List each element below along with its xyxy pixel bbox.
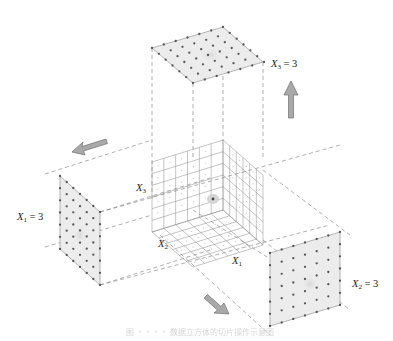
grid-dot: [192, 82, 194, 84]
cube-center-dot: [212, 198, 215, 201]
cube-dot: [194, 262, 195, 263]
grid-dot: [99, 223, 101, 225]
grid-dot: [72, 260, 74, 262]
grid-dot: [292, 245, 294, 247]
cube-dot: [169, 162, 170, 163]
grid-dot: [221, 66, 223, 68]
grid-dot: [229, 32, 231, 34]
grid-dot: [339, 255, 341, 257]
left-slice-panel: [59, 175, 101, 286]
grid-dot: [210, 29, 212, 31]
cube-dot: [239, 160, 240, 161]
cube-dot: [167, 238, 168, 239]
grid-dot: [66, 242, 68, 244]
grid-dot: [339, 292, 341, 294]
cube-dot: [205, 197, 206, 198]
grid-dot: [79, 229, 81, 231]
grid-dot: [66, 181, 68, 183]
grid-dot: [304, 254, 306, 256]
grid-dot: [79, 217, 81, 219]
cube-dot: [232, 154, 233, 155]
cube-dot: [223, 245, 224, 246]
grid-dot: [92, 217, 94, 219]
cube-dot: [169, 208, 170, 209]
grid-dot: [99, 247, 101, 249]
grid-dot: [175, 40, 177, 42]
grid-dot: [59, 236, 61, 238]
cube-dot: [203, 227, 204, 228]
grid-dot: [304, 314, 306, 316]
cube-dot: [252, 207, 253, 208]
grid-dot: [92, 205, 94, 207]
cube-dot: [181, 158, 182, 159]
cube-dot: [246, 212, 247, 213]
grid-dot: [72, 223, 74, 225]
grid-dot: [86, 235, 88, 237]
cube-dot: [193, 246, 194, 247]
grid-dot: [226, 56, 228, 58]
cube-dot: [186, 241, 187, 242]
grid-dot: [86, 199, 88, 201]
grid-dot: [198, 33, 200, 35]
cube-dot: [239, 183, 240, 184]
grid-dot: [244, 59, 246, 61]
cube-dot: [252, 172, 253, 173]
grid-dot: [207, 54, 209, 56]
cube-dot: [157, 189, 158, 190]
cube-dot: [246, 189, 247, 190]
grid-dot: [339, 267, 341, 269]
cube-dot: [205, 174, 206, 175]
grid-dot: [183, 61, 185, 63]
grid-dot: [339, 304, 341, 306]
grid-dot: [92, 266, 94, 268]
cube-dot: [157, 165, 158, 166]
cube-dot: [157, 177, 158, 178]
grid-dot: [269, 301, 271, 303]
cube-dot: [232, 201, 233, 202]
grid-dot: [86, 260, 88, 262]
cube-dot: [169, 185, 170, 186]
grid-dot: [292, 269, 294, 271]
grid-dot: [59, 248, 61, 250]
grid-dot: [281, 273, 283, 275]
cube-dot: [169, 197, 170, 198]
cube-dot: [232, 166, 233, 167]
grid-dot: [316, 287, 318, 289]
cube-dot: [228, 235, 229, 236]
cube-dot: [157, 200, 158, 201]
grid-dot: [216, 75, 218, 77]
cube-dot: [198, 237, 199, 238]
slicing-diagram: X3 = 3 X1 = 3 X2 = 3 X3 X2 X1: [0, 0, 393, 341]
grid-dot: [79, 205, 81, 207]
grid-dot: [292, 294, 294, 296]
grid-dot: [92, 229, 94, 231]
cube-dot: [218, 254, 219, 255]
grid-dot: [214, 60, 216, 62]
grid-dot: [99, 211, 101, 213]
grid-dot: [212, 45, 214, 47]
grid-dot: [86, 211, 88, 213]
grid-dot: [227, 71, 229, 73]
axis-label-x1: X1: [231, 255, 242, 268]
grid-dot: [176, 55, 178, 57]
grid-dot: [92, 254, 94, 256]
grid-dot: [79, 254, 81, 256]
grid-dot: [59, 187, 61, 189]
cube-dot: [259, 201, 260, 202]
grid-dot: [86, 272, 88, 274]
cube-dot: [215, 224, 216, 225]
grid-dot: [66, 193, 68, 195]
grid-dot: [158, 53, 160, 55]
grid-dot: [99, 235, 101, 237]
grid-dot: [316, 238, 318, 240]
grid-dot: [186, 36, 188, 38]
grid-dot: [316, 250, 318, 252]
cube-dot: [193, 201, 194, 202]
left-slice-label: X1 = 3: [16, 211, 43, 224]
cube-dot: [232, 177, 233, 178]
grid-dot: [281, 297, 283, 299]
grid-dot: [72, 248, 74, 250]
grid-dot: [59, 211, 61, 213]
grid-dot: [292, 306, 294, 308]
grid-dot: [72, 236, 74, 238]
